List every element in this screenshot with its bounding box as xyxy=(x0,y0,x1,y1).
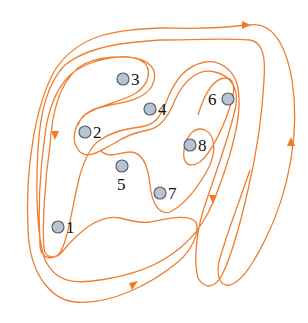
svg-text:5: 5 xyxy=(117,175,126,194)
node-1: 1 xyxy=(52,218,75,237)
svg-text:3: 3 xyxy=(131,70,140,89)
svg-text:6: 6 xyxy=(208,90,217,109)
svg-text:2: 2 xyxy=(93,123,102,142)
arrow-top-right-icon xyxy=(242,21,251,29)
svg-text:8: 8 xyxy=(198,136,207,155)
node-7: 7 xyxy=(154,184,177,203)
node-5: 5 xyxy=(116,160,128,194)
arrow-left-down-icon xyxy=(51,131,59,140)
arrow-right-inner-down-icon xyxy=(209,195,217,204)
continuous-curve xyxy=(27,25,264,302)
diagram-canvas: 1 2 3 4 5 6 7 8 xyxy=(0,0,308,323)
svg-text:1: 1 xyxy=(66,218,75,237)
node-2: 2 xyxy=(79,123,102,142)
node-4: 4 xyxy=(144,100,167,119)
node-3: 3 xyxy=(117,70,140,89)
svg-text:4: 4 xyxy=(158,100,167,119)
svg-text:7: 7 xyxy=(168,184,177,203)
